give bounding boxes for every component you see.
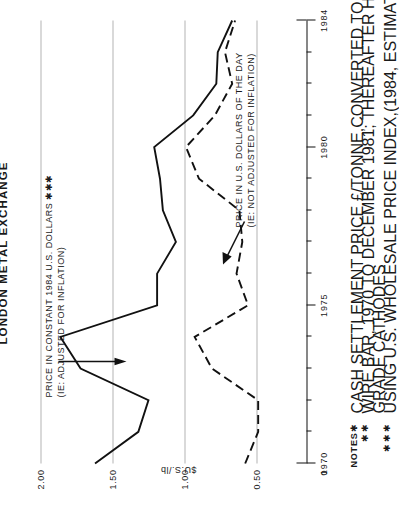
- note-text-3: USING U.S. WHOLESALE PRICE INDEX,(1984, …: [381, 0, 399, 413]
- x-tick-1973: [306, 367, 311, 368]
- annotation-constant-dollars-line2: (IE: ADJUSTED FOR INFLATION): [54, 174, 66, 397]
- x-tick-1976: [306, 272, 311, 273]
- plot-area: 2.001.501.000.50 PRICE IN CONSTANT 1984 …: [18, 20, 288, 463]
- x-tick-1979: [306, 177, 311, 178]
- x-tick-1984: [306, 19, 315, 20]
- annotation-current-dollars-line1: PRICE IN U.S. DOLLARS OF THE DAY: [233, 52, 243, 227]
- y-tick-label-2.00: 2.00: [35, 469, 45, 489]
- page-title: LONDON METAL EXCHANGE: [0, 0, 8, 505]
- x-tick-1978: [306, 209, 311, 210]
- annotation-current-dollars-line2: (IE: NOT ADJUSTED FOR INFLATION): [244, 52, 256, 227]
- arrow-to-constant-dollars: [56, 327, 128, 367]
- x-tick-1982: [306, 82, 311, 83]
- x-tick-1975: [306, 304, 315, 305]
- note-marker-3: ✱✱✱: [381, 421, 391, 467]
- x-tick-1977: [306, 241, 311, 242]
- y-tick-label-0.50: 0.50: [251, 469, 261, 489]
- x-tick-1971: [306, 430, 311, 431]
- y-tick-label-1.50: 1.50: [107, 469, 117, 489]
- x-tick-1970: [306, 462, 315, 463]
- annotation-current-dollars: PRICE IN U.S. DOLLARS OF THE DAY (IE: NO…: [232, 52, 256, 227]
- x-tick-label-1980: 1980: [318, 135, 328, 158]
- x-axis: 1970197519801984 0: [306, 20, 342, 463]
- x-tick-1972: [306, 399, 311, 400]
- x-axis-endcap-1984: [296, 19, 306, 20]
- x-tick-label-1975: 1975: [318, 293, 328, 316]
- x-tick-1980: [306, 146, 315, 147]
- note-marker-1: ✱✱: [359, 421, 369, 467]
- x-tick-1974: [306, 335, 311, 336]
- x-tick-1981: [306, 114, 311, 115]
- annotation-constant-dollars-line1: PRICE IN CONSTANT 1984 U.S. DOLLARS ✱✱✱: [43, 174, 53, 397]
- x-tick-label-1984: 1984: [318, 8, 328, 31]
- axis-origin-label: 0: [318, 470, 328, 475]
- annotation-constant-dollars: PRICE IN CONSTANT 1984 U.S. DOLLARS ✱✱✱ …: [42, 174, 66, 397]
- series-constant-dollars-line: [60, 20, 232, 463]
- y-axis-label: $U.S./lb: [160, 464, 196, 474]
- note-marker-0: ✱: [348, 421, 358, 467]
- x-axis-endcap-1970: [296, 462, 306, 463]
- x-tick-1983: [306, 51, 311, 52]
